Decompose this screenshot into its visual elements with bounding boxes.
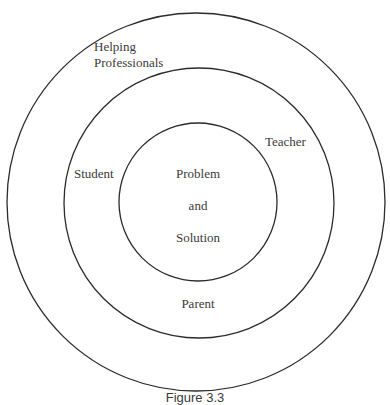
inner-label-line1: Problem [168, 166, 228, 181]
outer-label-line2: Professionals [94, 55, 163, 70]
figure-caption: Figure 3.3 [0, 390, 390, 405]
student-label: Student [74, 166, 114, 181]
parent-label: Parent [168, 296, 228, 311]
inner-label-line2: and [168, 198, 228, 213]
outer-label-line1: Helping [94, 39, 136, 54]
inner-label-line3: Solution [168, 230, 228, 245]
teacher-label: Teacher [265, 134, 306, 149]
